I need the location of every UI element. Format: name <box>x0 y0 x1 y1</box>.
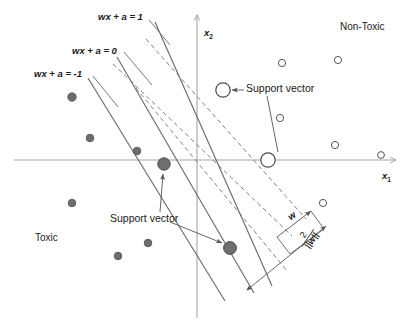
class-label-non-toxic: Non-Toxic <box>340 22 384 32</box>
equation-label-zero: wx + a = 0 <box>72 46 117 56</box>
leader-line-zero <box>124 52 152 85</box>
data-point-toxic <box>114 252 122 260</box>
data-point-nontoxic <box>319 199 326 206</box>
annotation-support-vector-lower: Support vector <box>110 213 178 224</box>
data-point-toxic <box>133 147 141 155</box>
data-point-nontoxic <box>334 56 341 63</box>
data-point-nontoxic <box>276 114 283 121</box>
data-point-toxic <box>68 93 76 101</box>
axes-group <box>14 15 396 318</box>
data-point-toxic <box>86 134 94 142</box>
line-wx-plus-a-equals-0 <box>117 57 254 293</box>
annotation-support-vector-upper: Support vector <box>246 83 314 94</box>
nontoxic-points-group <box>276 56 384 206</box>
toxic-points-group <box>68 93 152 260</box>
leader-line-plus-one <box>149 20 170 45</box>
support-vector-point-nontoxic-lower <box>261 153 275 167</box>
dashed-line-upper <box>146 39 306 219</box>
axis-label-x1: x1 <box>382 171 391 183</box>
support-vector-point-nontoxic-upper <box>216 83 230 97</box>
line-wx-plus-a-equals-minus-1 <box>88 78 225 301</box>
axis-label-x2-sub: 2 <box>209 33 213 40</box>
equation-label-plus-one: wx + a = 1 <box>98 12 143 22</box>
support-vector-point-toxic-lower <box>224 242 237 255</box>
data-point-toxic <box>68 199 76 207</box>
data-point-nontoxic <box>331 141 338 148</box>
support-vector-point-toxic-upper <box>158 158 170 170</box>
equation-label-minus-one: wx + a = -1 <box>34 69 82 79</box>
nontoxic-support-vectors-group <box>216 83 275 167</box>
diagram-canvas <box>0 0 416 333</box>
data-point-toxic <box>144 239 152 247</box>
svm-margin-figure: wx + a = 1 wx + a = 0 wx + a = -1 Non-To… <box>0 0 416 333</box>
axis-label-x1-sub: 1 <box>387 176 391 183</box>
dashed-line-margin-edge <box>136 88 288 272</box>
leader-support-vector-upper-diagonal <box>267 96 278 152</box>
data-point-nontoxic <box>378 152 385 159</box>
line-wx-plus-a-equals-1 <box>155 22 272 286</box>
axis-label-x2: x2 <box>204 28 213 40</box>
leader-support-vector-lower-vertical <box>160 174 163 212</box>
w-vector-baseline-left <box>277 237 290 254</box>
equation-leader-lines <box>93 20 170 107</box>
w-vector-baseline-right <box>311 211 324 229</box>
data-point-nontoxic <box>278 59 285 66</box>
class-label-toxic: Toxic <box>35 233 58 243</box>
